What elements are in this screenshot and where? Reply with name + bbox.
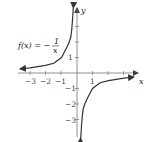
curve-left-branch xyxy=(20,8,73,69)
x-tick-label: −3 xyxy=(25,77,36,86)
function-label: f(x) = − 1 x xyxy=(17,37,59,55)
curve-right-branch xyxy=(81,77,134,138)
x-tick-label: 1 xyxy=(90,77,95,86)
x-tick-label: −2 xyxy=(40,77,51,86)
y-tick-label: −2 xyxy=(65,100,76,109)
y-tick-label: −1 xyxy=(65,84,76,93)
function-graph: −3 −2 −1 1 1 −1 −2 −3 x y f(x) = − 1 x xyxy=(0,0,147,142)
y-tick-label: 1 xyxy=(68,53,73,62)
svg-text:f(x) = −: f(x) = − xyxy=(17,41,50,50)
svg-text:x: x xyxy=(53,46,58,55)
x-axis-label: x xyxy=(139,77,144,86)
y-axis-label: y xyxy=(80,6,86,15)
svg-text:1: 1 xyxy=(54,37,59,46)
y-tick-label: −3 xyxy=(65,116,76,125)
